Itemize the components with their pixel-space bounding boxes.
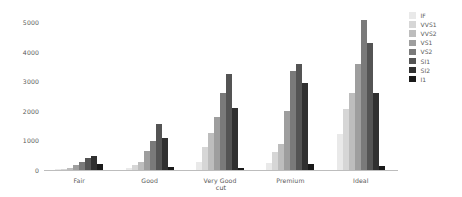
legend-item[interactable]: VS2 [409,47,437,56]
legend-swatch [409,49,416,56]
bar[interactable] [162,138,168,170]
legend-label: IF [421,12,426,19]
legend-swatch [409,76,416,83]
legend-label: VVS1 [421,21,437,28]
bar-group: Good [126,22,174,170]
y-axis-tick-label: 1000 [23,137,44,144]
legend-item[interactable]: SI1 [409,56,437,65]
bar[interactable] [302,83,308,170]
x-axis-group-label: Very Good [204,177,237,184]
legend-item[interactable]: VS1 [409,38,437,47]
bar[interactable] [232,108,238,170]
legend-item[interactable]: I1 [409,75,437,84]
legend-item[interactable]: VVS2 [409,29,437,38]
legend-swatch [409,40,416,47]
legend-item[interactable]: IF [409,11,437,20]
y-axis-tick-label: 2000 [23,107,44,114]
legend-item[interactable]: VVS1 [409,20,437,29]
legend-label: VVS2 [421,30,437,37]
legend-label: SI1 [421,58,431,65]
legend-swatch [409,58,416,65]
bar-group: Ideal [337,22,385,170]
legend-label: SI2 [421,67,431,74]
x-axis-line [44,170,398,171]
bar[interactable] [373,93,379,170]
legend-swatch [409,67,416,74]
legend-swatch [409,12,416,19]
plot-area: 010002000300040005000FairGoodVery GoodPr… [44,22,396,170]
y-axis-tick-label: 3000 [23,78,44,85]
legend: IFVVS1VVS2VS1VS2SI1SI2I1 [409,11,437,84]
bar-group: Premium [266,22,314,170]
bar-group: Fair [55,22,103,170]
x-axis-group-label: Good [141,177,158,184]
legend-swatch [409,21,416,28]
y-axis-tick-label: 5000 [23,19,44,26]
x-axis-group-label: Ideal [353,177,369,184]
x-axis-group-label: Fair [73,177,84,184]
y-axis-tick-label: 0 [35,167,44,174]
bar-group: Very Good [196,22,244,170]
legend-label: VS2 [421,48,433,55]
legend-item[interactable]: SI2 [409,66,437,75]
legend-swatch [409,30,416,37]
legend-label: VS1 [421,39,433,46]
legend-label: I1 [421,76,427,83]
y-axis-tick-label: 4000 [23,48,44,55]
x-axis-title: cut [44,184,398,192]
x-axis-group-label: Premium [276,177,304,184]
bar-chart: 010002000300040005000FairGoodVery GoodPr… [0,0,462,197]
